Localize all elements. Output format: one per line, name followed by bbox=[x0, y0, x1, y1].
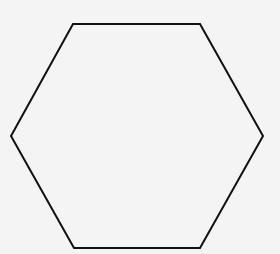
hexagon-shape bbox=[11, 24, 263, 248]
diagram-canvas bbox=[0, 0, 280, 254]
hexagon-figure bbox=[0, 0, 280, 254]
